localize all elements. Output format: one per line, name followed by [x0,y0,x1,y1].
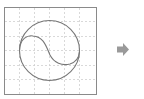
diagram-figure [0,0,144,99]
arrow-right-icon [117,43,129,56]
